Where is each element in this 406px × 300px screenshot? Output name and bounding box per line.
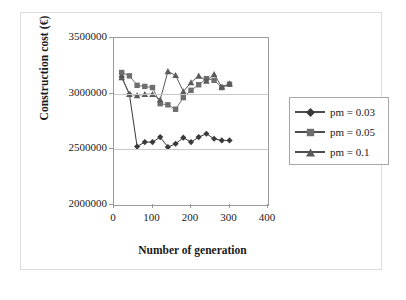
data-point-marker bbox=[226, 137, 232, 143]
chart-figure: Construction cost (€) Number of generati… bbox=[0, 0, 406, 300]
data-point-marker bbox=[127, 73, 132, 78]
data-point-marker bbox=[196, 134, 202, 140]
data-point-marker bbox=[188, 139, 194, 145]
data-point-marker bbox=[181, 95, 186, 100]
legend-item-pm-003: pm = 0.03 bbox=[295, 102, 383, 122]
legend-key-diamond bbox=[295, 105, 325, 119]
y-tick-mark bbox=[109, 148, 113, 149]
data-point-marker bbox=[142, 84, 147, 89]
y-tick-mark bbox=[109, 37, 113, 38]
data-point-marker bbox=[150, 85, 155, 90]
data-series-layer bbox=[114, 38, 268, 205]
x-tick-label: 200 bbox=[170, 211, 210, 223]
data-point-marker bbox=[165, 102, 170, 107]
data-point-marker bbox=[165, 68, 172, 74]
legend-item-pm-005: pm = 0.05 bbox=[295, 122, 383, 142]
gridline bbox=[114, 149, 268, 150]
data-point-marker bbox=[211, 71, 218, 77]
x-tick-label: 100 bbox=[132, 211, 172, 223]
legend-label: pm = 0.05 bbox=[325, 126, 375, 138]
data-point-marker bbox=[203, 131, 209, 137]
data-point-marker bbox=[219, 137, 225, 143]
data-point-marker bbox=[196, 82, 201, 87]
plot-area bbox=[113, 37, 269, 206]
legend-label: pm = 0.1 bbox=[325, 146, 370, 158]
data-point-marker bbox=[188, 88, 193, 93]
data-point-marker bbox=[172, 72, 179, 78]
y-tick-label: 3000000 bbox=[11, 86, 107, 98]
x-tick-mark bbox=[267, 204, 268, 208]
data-point-marker bbox=[173, 107, 178, 112]
x-tick-mark bbox=[152, 204, 153, 208]
data-point-marker bbox=[142, 139, 148, 145]
legend-key-triangle bbox=[295, 145, 325, 159]
y-tick-label: 2000000 bbox=[11, 197, 107, 209]
x-axis-title: Number of generation bbox=[100, 244, 285, 256]
y-tick-label: 3500000 bbox=[11, 30, 107, 42]
gridline bbox=[114, 94, 268, 95]
legend-item-pm-01: pm = 0.1 bbox=[295, 142, 383, 162]
x-tick-mark bbox=[190, 204, 191, 208]
x-tick-label: 0 bbox=[93, 211, 133, 223]
data-point-marker bbox=[211, 78, 216, 83]
x-tick-label: 300 bbox=[209, 211, 249, 223]
data-point-marker bbox=[134, 83, 139, 88]
legend-label: pm = 0.03 bbox=[325, 106, 375, 118]
legend: pm = 0.03 pm = 0.05 pm = 0.1 bbox=[289, 97, 389, 165]
y-axis-title: Construction cost (€) bbox=[38, 0, 50, 158]
y-tick-mark bbox=[109, 93, 113, 94]
x-tick-label: 400 bbox=[247, 211, 287, 223]
data-point-marker bbox=[195, 73, 202, 79]
legend-key-square bbox=[295, 125, 325, 139]
y-tick-label: 2500000 bbox=[11, 141, 107, 153]
data-point-marker bbox=[149, 139, 155, 145]
x-tick-mark bbox=[229, 204, 230, 208]
x-tick-mark bbox=[113, 204, 114, 208]
data-point-marker bbox=[211, 136, 217, 142]
